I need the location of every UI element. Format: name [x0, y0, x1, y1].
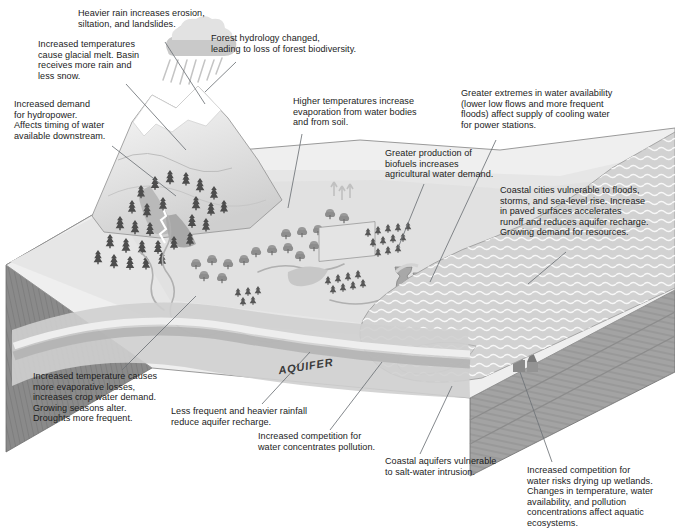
diagram-canvas: Heavier rain increases erosion, siltatio…	[0, 0, 675, 532]
caption-water-pollution: Increased competition for water concentr…	[258, 431, 448, 452]
caption-salt-water-intrusion: Coastal aquifers vulnerable to salt-wate…	[385, 456, 545, 477]
caption-heavier-rain: Heavier rain increases erosion, siltatio…	[78, 8, 258, 29]
caption-biofuels: Greater production of biofuels increases…	[385, 148, 545, 180]
caption-forest-hydrology: Forest hydrology changed, leading to los…	[211, 33, 401, 54]
caption-power-stations: Greater extremes in water availability (…	[461, 88, 675, 130]
caption-coastal-cities: Coastal cities vulnerable to floods, sto…	[500, 185, 675, 238]
caption-wetlands-aquatic: Increased competition for water risks dr…	[527, 465, 675, 529]
caption-hydropower-demand: Increased demand for hydropower. Affects…	[14, 99, 164, 141]
caption-glacial-melt: Increased temperatures cause glacial mel…	[38, 39, 188, 81]
caption-aquifer-recharge: Less frequent and heavier rainfall reduc…	[171, 406, 361, 427]
